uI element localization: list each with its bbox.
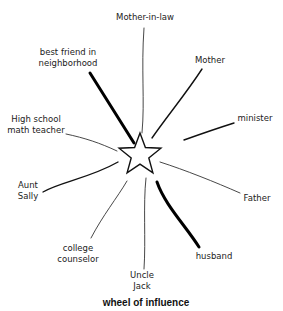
spoke-aunt-sally (43, 162, 118, 192)
star-icon (119, 133, 161, 173)
node-label-best-friend: best friend inneighborhood (39, 47, 98, 68)
spoke-mother-in-law (142, 28, 144, 133)
node-label-minister: minister (238, 113, 273, 123)
spoke-college-counselor (91, 181, 127, 238)
node-label-mother-in-law: Mother-in-law (116, 12, 174, 22)
node-label-father: Father (244, 193, 271, 203)
node-label-aunt-sally: AuntSally (18, 180, 39, 201)
wheel-of-influence-diagram: Mother-in-lawbest friend inneighborhoodM… (0, 0, 283, 311)
node-label-mother: Mother (195, 55, 225, 65)
spoke-best-friend (90, 73, 134, 143)
node-label-husband: husband (196, 251, 233, 261)
spoke-mother (152, 69, 202, 138)
node-label-math-teacher: High schoolmath teacher (7, 114, 65, 135)
spoke-father (160, 162, 240, 193)
spoke-minister (184, 123, 234, 140)
spoke-husband (157, 182, 199, 247)
diagram-title: wheel of influence (102, 297, 190, 308)
spoke-math-teacher (66, 134, 117, 151)
node-label-college-counselor: collegecounselor (57, 243, 99, 264)
spoke-uncle-jack (144, 178, 146, 269)
node-label-uncle-jack: UncleJack (130, 270, 154, 291)
